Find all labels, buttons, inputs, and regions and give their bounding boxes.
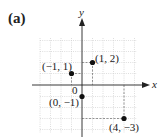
axes xyxy=(32,22,146,137)
data-points xyxy=(69,60,127,121)
coordinate-plane: x y 0 (1, 2) (−1, 1) (0, −1) (4, −3) xyxy=(0,0,164,140)
point-label: (0, −1) xyxy=(49,96,79,109)
point-label: (−1, 1) xyxy=(42,60,72,73)
y-axis-label: y xyxy=(78,6,84,18)
origin-label: 0 xyxy=(72,84,78,96)
y-axis-arrow-icon xyxy=(79,18,85,26)
point-label: (4, −3) xyxy=(109,121,139,134)
guide-lines xyxy=(72,63,125,119)
x-axis-label: x xyxy=(151,78,157,90)
point-0-neg1 xyxy=(79,94,84,99)
point-label: (1, 2) xyxy=(95,52,119,65)
x-axis-arrow-icon xyxy=(142,82,150,88)
